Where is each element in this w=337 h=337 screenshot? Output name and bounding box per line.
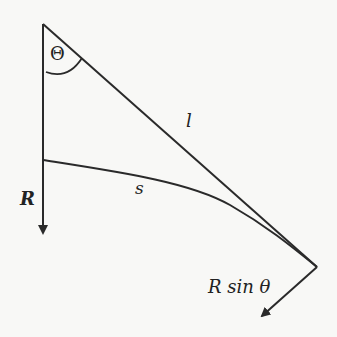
arc-label: s <box>135 180 144 197</box>
diagram-canvas: Θ R l s R sin θ <box>0 0 337 337</box>
vector-r-label: R <box>20 190 35 208</box>
component-label: R sin θ <box>208 278 270 296</box>
angle-label: Θ <box>50 45 65 63</box>
arc-curve <box>43 160 317 267</box>
chord-line <box>43 24 317 267</box>
chord-label: l <box>186 112 192 130</box>
